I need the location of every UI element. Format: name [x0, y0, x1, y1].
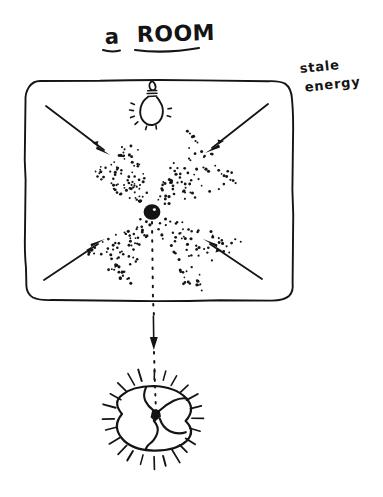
stipple-dot	[176, 221, 178, 223]
stipple-dot	[189, 159, 191, 161]
stipple-dot	[120, 172, 122, 174]
stipple-dot	[118, 242, 121, 245]
stipple-dot	[211, 153, 214, 156]
stipple-dot	[207, 170, 210, 173]
stipple-dot	[174, 236, 177, 239]
stipple-dot	[157, 199, 159, 201]
stipple-dot	[138, 195, 140, 197]
stipple-dot	[179, 176, 182, 179]
stipple-dot	[218, 241, 221, 244]
stipple-dot	[180, 232, 182, 234]
stipple-dot	[124, 158, 126, 160]
stipple-dot	[104, 166, 106, 168]
stipple-dot	[143, 177, 146, 180]
stipple-dot	[235, 182, 237, 184]
radiant-ray	[103, 404, 116, 407]
radiant-ray	[163, 371, 166, 380]
stipple-dot	[145, 234, 148, 237]
stipple-dot	[132, 257, 134, 259]
stipple-dot	[173, 162, 175, 164]
stipple-dot	[170, 244, 173, 247]
radiant-ray	[172, 450, 180, 463]
stipple-dot	[179, 173, 182, 176]
stipple-dot	[135, 197, 137, 199]
stipple-dot	[137, 237, 140, 240]
exit-line-into-circle	[155, 386, 156, 412]
stipple-dot	[189, 132, 191, 134]
stipple-dot	[187, 172, 190, 175]
stipple-dot	[117, 183, 119, 185]
stipple-dot	[218, 188, 220, 190]
stipple-dot	[112, 178, 115, 181]
bulb-ray-4	[135, 122, 138, 125]
stipple-dot	[223, 183, 226, 186]
title-article: a	[104, 25, 119, 49]
stipple-dot	[135, 237, 137, 239]
stipple-dot	[111, 268, 113, 270]
radiant-ray	[180, 385, 188, 392]
stipple-dot	[107, 238, 110, 241]
stipple-dot	[176, 182, 178, 184]
stipple-dot	[218, 237, 220, 239]
stipple-dot	[133, 185, 135, 187]
stipple-dot	[114, 242, 116, 244]
stale-energy-line1: stale	[299, 57, 340, 76]
stipple-dot	[173, 170, 176, 173]
stipple-dot	[160, 233, 163, 236]
stipple-dot	[136, 242, 138, 244]
stipple-dot	[161, 189, 164, 192]
stipple-dot	[195, 248, 198, 251]
stipple-dot	[164, 203, 167, 206]
stipple-dot	[128, 182, 131, 185]
stipple-dot	[136, 186, 138, 188]
stipple-dot	[116, 257, 118, 259]
stipple-dot	[138, 164, 140, 166]
stipple-dot	[100, 178, 102, 180]
stipple-dot	[190, 179, 192, 181]
stipple-dot	[106, 251, 108, 253]
stipple-dot	[119, 276, 122, 279]
exit-arrow-head	[150, 337, 158, 350]
stipple-dot	[121, 146, 123, 148]
stipple-dot	[195, 283, 198, 286]
stipple-dot	[127, 179, 129, 181]
page-title: a ROOM	[103, 20, 215, 52]
stipple-dot	[204, 168, 207, 171]
stipple-dot	[185, 187, 187, 189]
stipple-dot	[93, 253, 95, 255]
stipple-dot	[159, 195, 161, 197]
stipple-dot	[135, 260, 137, 262]
stipple-dot	[125, 189, 128, 192]
stipple-dot	[121, 271, 124, 274]
stipple-dot	[139, 184, 141, 186]
stipple-dot	[100, 166, 102, 168]
stipple-dot	[190, 266, 192, 268]
stipple-dot	[172, 232, 174, 234]
stipple-dot	[119, 251, 121, 253]
room-walls	[25, 80, 294, 301]
stipple-dot	[240, 241, 242, 243]
stipple-dot	[133, 233, 136, 236]
radiant-ray	[138, 370, 141, 381]
stipple-dot	[187, 281, 190, 284]
stipple-dot	[110, 164, 112, 166]
stipple-dot	[133, 175, 136, 178]
stipple-dot	[140, 225, 143, 228]
stipple-dot	[230, 242, 233, 245]
stipple-dot	[195, 245, 197, 247]
stipple-dot	[184, 281, 187, 284]
arrow-top-left	[46, 106, 110, 155]
stipple-dot	[198, 246, 201, 249]
ceiling-light-bulb	[130, 81, 172, 130]
stipple-dot	[184, 237, 187, 240]
stipple-dot	[115, 234, 117, 236]
title-noun-underline	[135, 48, 199, 52]
stipple-dot	[168, 178, 171, 181]
stipple-dot	[228, 251, 230, 253]
stipple-dot	[162, 238, 164, 240]
hourglass-lower-right-curve	[160, 419, 186, 434]
stipple-dot	[221, 173, 223, 175]
title-noun: ROOM	[136, 20, 215, 47]
stipple-dot	[195, 168, 198, 171]
stipple-cone-upper-right	[157, 130, 236, 205]
